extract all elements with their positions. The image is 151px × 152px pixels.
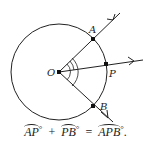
- angle-mark-middle: [70, 61, 74, 70]
- period: .: [124, 125, 127, 139]
- point-P: [104, 62, 108, 66]
- label-B: B: [99, 101, 107, 112]
- label-P: P: [108, 68, 116, 79]
- arrowhead-P-icon: [128, 57, 134, 65]
- equals-sign: =: [85, 125, 92, 139]
- plus-sign: +: [48, 125, 55, 139]
- ray-OA: [59, 13, 120, 72]
- label-A: A: [88, 24, 96, 35]
- arc-PB: PB: [61, 125, 76, 140]
- degree-sign: °: [76, 124, 80, 134]
- point-A: [91, 37, 95, 41]
- angle-mark-outer: [72, 58, 78, 86]
- label-O: O: [47, 67, 55, 78]
- arc-APB: APB: [98, 125, 120, 140]
- point-O: [57, 70, 61, 74]
- degree-sign: °: [39, 124, 43, 134]
- point-B: [91, 104, 95, 108]
- arc-addition-diagram: O A P B: [0, 0, 151, 124]
- angle-mark-inner: [67, 64, 70, 80]
- ray-OP: [59, 60, 143, 72]
- arrowhead-A-icon: [107, 14, 115, 20]
- arc-AP: AP: [24, 125, 39, 140]
- arc-addition-equation: AP° + PB° = APB°.: [0, 124, 151, 140]
